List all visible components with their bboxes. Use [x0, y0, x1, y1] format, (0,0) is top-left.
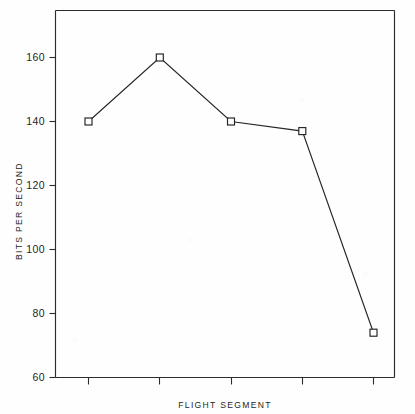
x-axis-title: FLIGHT SEGMENT: [178, 400, 271, 410]
data-point-4[interactable]: [299, 128, 306, 135]
y-tick-label-80: 80: [33, 307, 45, 319]
data-point-3[interactable]: [228, 118, 235, 125]
data-point-2[interactable]: [156, 54, 163, 61]
y-tick-label-60: 60: [33, 371, 45, 383]
plot-frame: [56, 11, 395, 378]
series-line-bits-per-second: [89, 58, 374, 333]
y-tick-label-160: 160: [26, 51, 45, 63]
y-tick-label-100: 100: [26, 243, 45, 255]
series-markers: [85, 54, 377, 336]
y-axis-tick-labels: 160 140 120 100 80 60: [26, 51, 45, 383]
data-point-1[interactable]: [85, 118, 92, 125]
x-axis-ticks: [89, 378, 374, 385]
y-axis-title: BITS PER SECOND: [14, 162, 24, 260]
line-chart-plot: 160 140 120 100 80 60 BITS PER SECOND: [0, 0, 415, 414]
data-point-5[interactable]: [370, 329, 377, 336]
y-tick-label-120: 120: [26, 179, 45, 191]
y-axis-ticks: [50, 58, 56, 378]
y-tick-label-140: 140: [26, 115, 45, 127]
chart-figure: 160 140 120 100 80 60 BITS PER SECOND: [0, 0, 415, 414]
